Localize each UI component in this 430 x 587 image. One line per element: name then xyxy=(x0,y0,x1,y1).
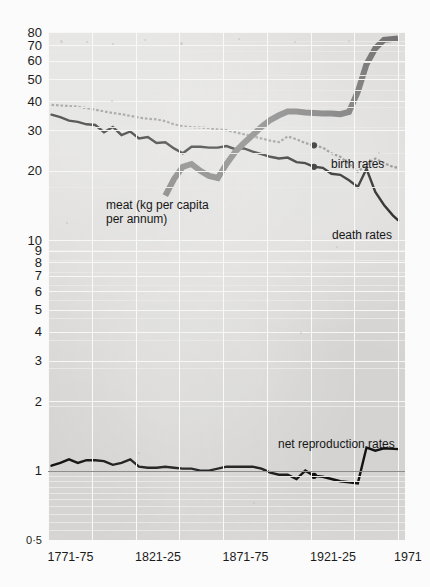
series-lines xyxy=(48,32,405,540)
gridline-h xyxy=(48,79,405,80)
paper-speck xyxy=(238,38,240,40)
gridline-h xyxy=(48,262,405,263)
gridline-h-minor xyxy=(48,127,405,128)
y-axis-tick-label: 60 xyxy=(0,54,42,67)
paper-speck xyxy=(60,40,63,43)
gridline-h xyxy=(48,310,405,311)
x-axis-tick-label: 1971 xyxy=(394,551,422,564)
plot-area: meat (kg per capita per annum) birth rat… xyxy=(48,32,405,540)
gridline-v xyxy=(223,32,224,540)
x-axis-tick-label: 1771-75 xyxy=(48,551,94,564)
gridline-h-minor xyxy=(48,153,405,154)
paper-speck xyxy=(378,152,380,154)
gridline-h-minor xyxy=(48,107,405,108)
y-axis-tick-label: 50 xyxy=(0,73,42,86)
paper-speck xyxy=(348,40,350,42)
y-axis-tick-label: 6 xyxy=(0,285,42,298)
gridline-h-minor xyxy=(48,506,405,507)
gridline-h xyxy=(48,401,405,402)
gridline-v xyxy=(48,32,49,540)
gridline-h xyxy=(48,361,405,362)
gridline-h-minor xyxy=(48,187,405,188)
x-axis-tick-label: 1821-25 xyxy=(135,551,181,564)
gridline-v xyxy=(136,32,137,540)
y-axis-tick-label: 7 xyxy=(0,269,42,282)
gridline-h-minor xyxy=(48,90,405,91)
gridline-v xyxy=(267,32,268,540)
gridline-h xyxy=(48,130,405,131)
y-axis-tick-label: 30 xyxy=(0,124,42,137)
paper-speck xyxy=(86,41,88,43)
y-axis-tick-label: 70 xyxy=(0,39,42,52)
annotation-birth-rates: birth rates xyxy=(331,157,384,171)
gridline-h-minor xyxy=(48,272,405,273)
paper-speck xyxy=(300,332,302,334)
gridline-h-minor xyxy=(48,318,405,319)
annotation-meat: meat (kg per capita per annum) xyxy=(106,198,209,226)
paper-speck xyxy=(111,100,113,102)
gridline-h-minor xyxy=(48,285,405,286)
gridline-v xyxy=(92,32,93,540)
gridline-h-minor xyxy=(48,514,405,515)
gridline-h-minor xyxy=(48,51,405,52)
gridline-h-minor xyxy=(48,476,405,477)
gridline-h xyxy=(48,101,405,102)
gridline-h-minor xyxy=(48,499,405,500)
gridline-h-minor xyxy=(48,530,405,531)
gridline-h-minor xyxy=(48,62,405,63)
paper-speck xyxy=(253,502,255,504)
gridline-v xyxy=(311,32,312,540)
gridline-h xyxy=(48,332,405,333)
gridline-h-minor xyxy=(48,522,405,523)
gridline-h-minor xyxy=(48,487,405,488)
chart-figure: meat (kg per capita per annum) birth rat… xyxy=(0,0,430,587)
gridline-h-minor xyxy=(48,41,405,42)
gridline-h xyxy=(48,291,405,292)
gridline-h-minor xyxy=(48,75,405,76)
paper-speck xyxy=(138,452,140,454)
paper-speck xyxy=(112,43,114,45)
gridline-h xyxy=(48,276,405,277)
gridline-h-minor xyxy=(48,260,405,261)
y-axis-tick-label: 80 xyxy=(0,26,42,39)
gridline-h xyxy=(48,45,405,46)
paper-speck xyxy=(336,246,338,248)
gridline-h-minor xyxy=(48,481,405,482)
y-axis-tick-label: 4 xyxy=(0,325,42,338)
reference-line-one xyxy=(48,471,405,472)
paper-speck xyxy=(66,222,68,224)
y-axis-tick-label: 3 xyxy=(0,354,42,367)
gridline-v xyxy=(398,32,399,540)
y-axis-tick-label: 1 xyxy=(0,464,42,477)
y-axis-tick-label: 2 xyxy=(0,395,42,408)
y-axis-tick-label: 8 xyxy=(0,256,42,269)
paper-speck xyxy=(180,42,183,45)
gridline-v xyxy=(179,32,180,540)
gridline-h-minor xyxy=(48,368,405,369)
y-axis-tick-label: 40 xyxy=(0,95,42,108)
gridline-h-minor xyxy=(48,493,405,494)
gridline-h-minor xyxy=(48,340,405,341)
gridline-h-minor xyxy=(48,300,405,301)
paper-speck xyxy=(294,41,296,43)
annotation-net-reproduction-rates: net reproduction rates xyxy=(278,437,395,451)
paper-speck xyxy=(144,39,146,41)
series-line-net xyxy=(52,448,399,484)
y-axis-tick-label: 20 xyxy=(0,164,42,177)
gridline-h xyxy=(48,251,405,252)
annotation-death-rates: death rates xyxy=(332,228,392,242)
gridline-h xyxy=(48,32,405,33)
gridline-h-minor xyxy=(48,250,405,251)
x-axis-tick-label: 1921-25 xyxy=(310,551,356,564)
y-axis-tick-label: 0·5 xyxy=(0,534,42,547)
y-axis-tick-label: 5 xyxy=(0,303,42,316)
gridline-v xyxy=(354,32,355,540)
x-axis-tick-label: 1871-75 xyxy=(223,551,269,564)
gridline-h xyxy=(48,171,405,172)
gridline-h-minor xyxy=(48,406,405,407)
